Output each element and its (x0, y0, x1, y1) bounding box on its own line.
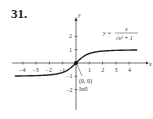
svg-text:√x² + 1: √x² + 1 (115, 35, 133, 41)
svg-text:3: 3 (115, 67, 118, 73)
svg-text:1: 1 (88, 67, 91, 73)
svg-text:−2: −2 (46, 67, 52, 73)
chart: x y −4 −3 −2 −1 1 2 3 4 2 1 −1 −2 (0, 0 (0, 0, 153, 119)
svg-text:−3: −3 (32, 67, 38, 73)
inflection-point (74, 61, 78, 65)
svg-text:2: 2 (69, 33, 72, 39)
svg-text:−2: −2 (66, 87, 72, 93)
equation-label: y = x √x² + 1 (102, 26, 138, 41)
svg-text:x: x (124, 26, 128, 32)
svg-text:4: 4 (128, 67, 131, 73)
point-label: (0, 0) (79, 78, 92, 85)
svg-text:−4: −4 (19, 67, 25, 73)
x-axis-label: x (148, 61, 152, 67)
y-axis-label: y (77, 12, 81, 18)
svg-text:2: 2 (101, 67, 104, 73)
inflection-label: Infl (79, 86, 88, 92)
svg-text:y =: y = (102, 30, 111, 36)
svg-text:−1: −1 (66, 73, 72, 79)
annotation-leader (77, 65, 82, 77)
x-tick-labels: −4 −3 −2 −1 1 2 3 4 (19, 67, 131, 73)
svg-text:1: 1 (69, 47, 72, 53)
